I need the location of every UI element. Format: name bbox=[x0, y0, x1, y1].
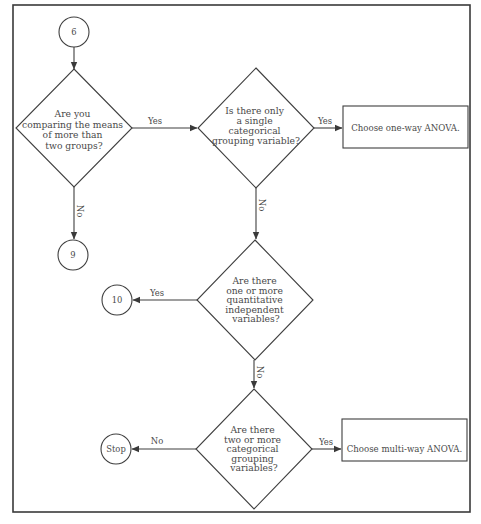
result-multi-way-anova: Choose multi-way ANOVA. bbox=[342, 419, 467, 461]
decision-line: of more than bbox=[43, 129, 103, 140]
edge-label-no-4: No bbox=[151, 436, 163, 446]
anova-decision-flowchart: Yes No Yes No Yes No No Yes 6 Are you co… bbox=[0, 0, 481, 524]
edge-label-no-3: No bbox=[255, 366, 265, 378]
edge-label-yes-4: Yes bbox=[318, 437, 333, 447]
decision-single-grouping-variable: Is there only a single categorical group… bbox=[198, 68, 314, 188]
decision-line: Are you bbox=[54, 108, 91, 119]
decision-line: variables? bbox=[229, 462, 277, 473]
decision-compare-means: Are you comparing the means of more than… bbox=[16, 69, 132, 187]
decision-two-or-more-grouping: Are there two or more categorical groupi… bbox=[196, 389, 312, 509]
decision-line: grouping variable? bbox=[212, 135, 300, 146]
svg-text:9: 9 bbox=[70, 250, 75, 260]
svg-text:Choose multi-way ANOVA.: Choose multi-way ANOVA. bbox=[347, 444, 462, 454]
edge-label-no-2: No bbox=[257, 199, 267, 211]
connector-9: 9 bbox=[58, 240, 88, 270]
edge-label-yes-2: Yes bbox=[317, 116, 332, 126]
connector-6: 6 bbox=[59, 17, 89, 47]
edges: Yes No Yes No Yes No No Yes bbox=[74, 47, 342, 449]
svg-text:Choose one-way ANOVA.: Choose one-way ANOVA. bbox=[351, 123, 460, 133]
connector-10: 10 bbox=[102, 285, 132, 315]
svg-text:Are there one or more: Are there one or more quantitative indep… bbox=[225, 275, 286, 324]
edge-label-no-1: No bbox=[75, 205, 85, 217]
svg-text:Stop: Stop bbox=[106, 444, 126, 454]
svg-text:6: 6 bbox=[71, 27, 76, 37]
decision-line: two groups? bbox=[45, 140, 102, 151]
edge-label-yes-3: Yes bbox=[149, 288, 164, 298]
svg-text:Are there two or more: Are there two or more categorical groupi… bbox=[224, 424, 284, 473]
edge-label-yes-1: Yes bbox=[147, 116, 162, 126]
terminal-stop: Stop bbox=[101, 434, 131, 464]
result-one-way-anova: Choose one-way ANOVA. bbox=[343, 106, 468, 148]
decision-quantitative-independent: Are there one or more quantitative indep… bbox=[197, 240, 313, 360]
decision-line: variables? bbox=[231, 313, 279, 324]
svg-text:10: 10 bbox=[112, 295, 123, 305]
decision-line: comparing the means bbox=[22, 119, 123, 130]
